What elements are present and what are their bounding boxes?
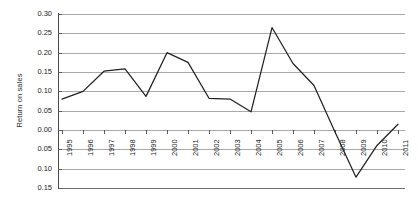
series-line-layer xyxy=(0,0,418,222)
chart-container: Return on sales 0.300.250.200.150.100.05… xyxy=(0,0,418,222)
series-line-return-on-sales xyxy=(62,28,398,178)
